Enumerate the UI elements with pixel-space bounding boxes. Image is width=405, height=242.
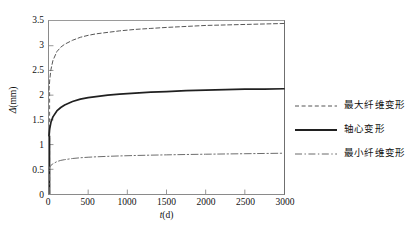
legend-item-1[interactable]: 最大纤维变形 bbox=[294, 92, 405, 116]
y-tick-label: 3.5 bbox=[14, 15, 44, 25]
legend-label: 最大纤维变形 bbox=[344, 97, 405, 111]
x-tick-label: 500 bbox=[80, 197, 94, 208]
y-tick-label: 2 bbox=[14, 90, 44, 100]
series-line-1 bbox=[49, 23, 284, 90]
x-tick-label: 2500 bbox=[236, 197, 255, 208]
caption-strip-partial bbox=[95, 236, 395, 242]
chart-plot-svg bbox=[49, 21, 284, 194]
x-tick-label: 0 bbox=[46, 197, 51, 208]
y-tick-label: 2.5 bbox=[14, 65, 44, 75]
series-line-3 bbox=[49, 153, 284, 169]
legend-label: 最小纤维变形 bbox=[344, 145, 405, 159]
series-line-2 bbox=[49, 89, 284, 136]
y-tick-label: 1.5 bbox=[14, 115, 44, 125]
legend-line-icon bbox=[294, 122, 338, 134]
y-tick-label: 3 bbox=[14, 40, 44, 50]
legend-line-icon bbox=[294, 98, 338, 110]
plot-area bbox=[48, 20, 285, 195]
y-tick-labels: 00.511.522.533.5 bbox=[14, 20, 44, 195]
x-tick-label: 1500 bbox=[157, 197, 176, 208]
y-tick-label: 0.5 bbox=[14, 165, 44, 175]
legend-label: 轴心变形 bbox=[344, 121, 385, 135]
x-tick-label: 2000 bbox=[197, 197, 216, 208]
y-tick-label: 1 bbox=[14, 140, 44, 150]
x-tick-label: 1000 bbox=[118, 197, 137, 208]
y-tick-label: 0 bbox=[14, 190, 44, 200]
x-tick-labels: 050010001500200025003000 bbox=[48, 197, 285, 211]
x-axis-unit: (d) bbox=[162, 210, 173, 220]
legend-item-3[interactable]: 最小纤维变形 bbox=[294, 140, 405, 164]
chart-legend: 最大纤维变形轴心变形最小纤维变形 bbox=[294, 92, 405, 164]
legend-line-icon bbox=[294, 146, 338, 158]
figure-container: Δ(mm) 00.511.522.533.5 05001000150020002… bbox=[0, 0, 405, 242]
x-axis-title: t(d) bbox=[48, 210, 285, 220]
x-tick-label: 3000 bbox=[276, 197, 295, 208]
legend-item-2[interactable]: 轴心变形 bbox=[294, 116, 405, 140]
